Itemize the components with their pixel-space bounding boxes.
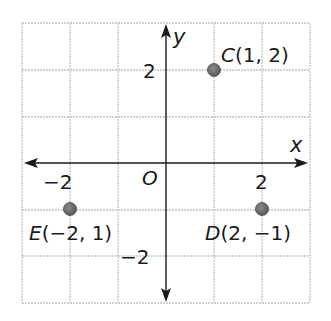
point-D-label: D(2, −1) (205, 221, 291, 245)
y-axis-label: y (172, 25, 186, 49)
point-C: C(1, 2) (208, 43, 289, 77)
origin-label: O (142, 166, 158, 190)
point-D-marker (256, 203, 269, 216)
point-E: E(−2, 1) (29, 203, 112, 246)
point-E-marker (64, 203, 77, 216)
point-C-label: C(1, 2) (221, 43, 289, 67)
x-tick-label-2: 2 (255, 170, 268, 194)
x-tick-label-neg2: −2 (43, 170, 72, 194)
point-E-label: E(−2, 1) (29, 221, 112, 245)
point-C-marker (208, 64, 221, 77)
y-tick-label-neg2: −2 (120, 245, 149, 269)
y-tick-label-2: 2 (143, 59, 156, 83)
x-axis-label: x (289, 133, 303, 157)
point-D: D(2, −1) (205, 203, 291, 246)
coordinate-plane: y x O −2 2 2 −2 C(1, 2) D(2, −1) E(−2, 1… (0, 0, 331, 321)
